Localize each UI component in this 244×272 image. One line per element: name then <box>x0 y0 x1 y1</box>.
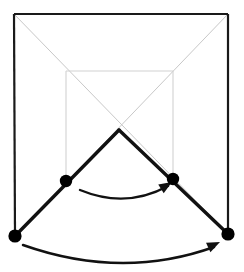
linkage-diagram <box>0 0 244 272</box>
joint-inner-right <box>167 173 179 185</box>
joint-outer-left <box>8 229 21 242</box>
figure-background <box>0 0 244 272</box>
outer-frame-left-edge <box>14 14 15 236</box>
joint-outer-right <box>221 227 234 240</box>
figure-root <box>0 0 244 272</box>
joint-inner-left <box>60 175 72 187</box>
